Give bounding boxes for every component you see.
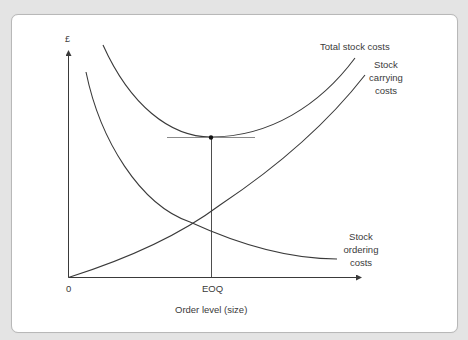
ordering-label-line-3: costs [337,256,385,269]
carrying-cost-label: Stock carrying costs [362,58,410,97]
eoq-label: EOQ [202,282,223,295]
origin-label: 0 [66,282,71,295]
ordering-label-line-2: ordering [337,243,385,256]
total-cost-label: Total stock costs [320,40,390,53]
y-axis-label: £ [65,33,70,46]
carrying-label-line-3: costs [362,84,410,97]
total-cost-curve [103,45,355,137]
carrying-label-line-2: carrying [362,71,410,84]
ordering-label-line-1: Stock [337,230,385,243]
x-axis-title: Order level (size) [175,303,247,316]
carrying-cost-curve [69,75,366,278]
ordering-cost-label: Stock ordering costs [337,230,385,269]
minimum-point [209,135,213,139]
carrying-label-line-1: Stock [362,58,410,71]
